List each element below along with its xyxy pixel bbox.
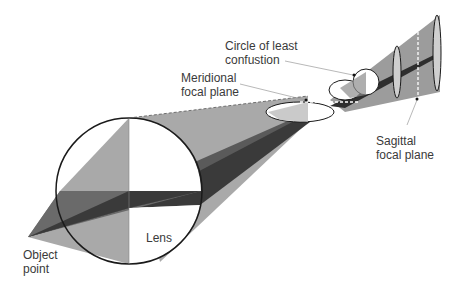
leader-meridional	[240, 84, 305, 100]
dot-meridional	[305, 99, 308, 102]
dot-sagittal	[416, 98, 419, 101]
dot-confusion	[353, 74, 356, 77]
leader-confusion	[285, 61, 353, 75]
sagittal-ellipse-far	[433, 15, 441, 91]
leader-sagittal	[407, 100, 417, 125]
label-sagittal-2: focal plane	[376, 148, 434, 162]
label-confusion-2: confustion	[225, 53, 280, 67]
astigmatism-diagram: Circle of least confustion Meridional fo…	[0, 0, 461, 290]
label-object-1: Object	[23, 248, 58, 262]
label-meridional-1: Meridional	[181, 71, 236, 85]
label-sagittal-1: Sagittal	[376, 134, 416, 148]
label-confusion-1: Circle of least	[225, 39, 298, 53]
sagittal-ellipse-near	[393, 46, 401, 98]
label-meridional-2: focal plane	[181, 85, 239, 99]
label-object-2: point	[23, 262, 50, 276]
label-lens: Lens	[146, 231, 172, 245]
